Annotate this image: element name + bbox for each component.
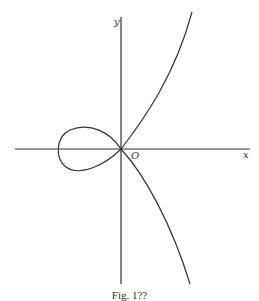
- curve-upper-branch: [121, 12, 192, 149]
- origin-label: O: [131, 151, 139, 161]
- figure-caption: Fig. 1??: [0, 290, 259, 301]
- curve-lower-branch: [121, 149, 190, 284]
- y-axis-label: y: [114, 17, 120, 27]
- x-axis-label: x: [243, 150, 249, 160]
